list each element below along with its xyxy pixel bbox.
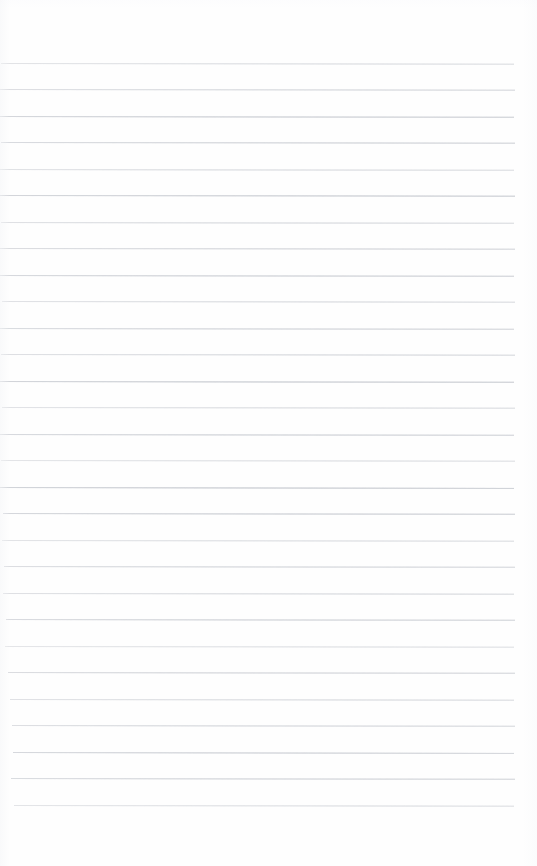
rule-line <box>0 381 514 383</box>
rule-line <box>4 566 515 568</box>
rule-line <box>11 778 515 780</box>
rule-line <box>0 89 515 91</box>
rule-line <box>0 275 514 277</box>
rule-line <box>0 434 514 436</box>
rule-line <box>1 354 515 356</box>
rule-line <box>1 142 515 144</box>
rule-line <box>2 301 515 303</box>
rule-line <box>0 487 514 489</box>
rule-line <box>0 248 515 250</box>
paper-surface <box>0 0 537 866</box>
rule-line <box>0 169 514 171</box>
rule-line <box>10 699 514 701</box>
rule-line <box>1 63 514 65</box>
rule-line <box>0 195 515 197</box>
rule-line <box>2 407 515 409</box>
rule-line <box>5 646 514 648</box>
rule-line <box>3 513 515 515</box>
notebook-page <box>0 0 537 866</box>
rule-line <box>0 116 514 118</box>
rule-line <box>0 328 514 330</box>
rule-line <box>1 460 515 462</box>
rule-line <box>8 672 515 674</box>
rule-line <box>13 752 514 754</box>
rule-line <box>1 222 514 224</box>
rule-line <box>14 805 514 807</box>
rule-line <box>6 619 515 621</box>
rule-line <box>3 593 514 595</box>
rule-line <box>2 540 514 542</box>
rule-line <box>12 725 515 727</box>
